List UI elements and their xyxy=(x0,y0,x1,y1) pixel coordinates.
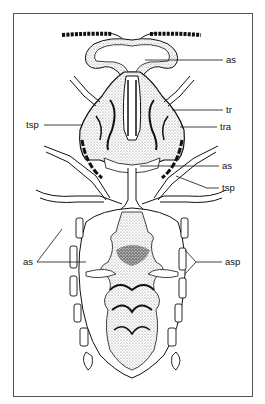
label-as-head: as xyxy=(226,55,236,65)
label-as-thorax: as xyxy=(222,161,232,171)
label-tr: tr xyxy=(226,105,232,115)
label-tsp-left: tsp xyxy=(26,120,39,130)
abdomen xyxy=(70,208,188,378)
label-tsp-right: tsp xyxy=(222,183,235,193)
label-asp: asp xyxy=(225,257,240,267)
thorax xyxy=(80,72,185,178)
waist xyxy=(120,168,144,210)
label-tra: tra xyxy=(220,122,231,132)
antennae xyxy=(62,33,201,40)
label-as-abdomen: as xyxy=(23,257,33,267)
